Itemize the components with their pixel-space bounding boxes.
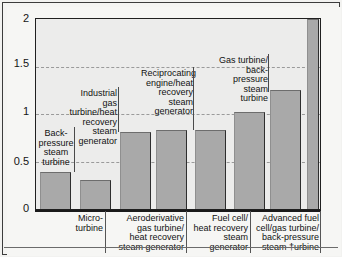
figure-container: 2 1.5 1 0.5 0 Back- pressure steam turbi… <box>0 0 342 257</box>
y-tick-1-5: 1.5 <box>14 58 29 69</box>
bar-back-pressure-steam-turbine <box>40 172 71 209</box>
callout-industrial-gas-turbine: Industrial gas turbine/heat recovery ste… <box>69 89 117 147</box>
leader-reciprocating-engine <box>193 67 194 130</box>
leader-gas-turbine-back-pressure <box>268 54 269 92</box>
bar-fuel-cell-hrsg <box>234 112 265 209</box>
bar-gas-turbine-back-pressure <box>270 90 301 209</box>
y-tick-1: 1 <box>23 106 29 117</box>
callout-reciprocating-engine: Reciprocating engine/heat recovery steam… <box>141 69 193 117</box>
bar-aeroderivative-gas-turbine <box>156 130 187 209</box>
y-tick-0-5: 0.5 <box>14 156 29 167</box>
plot-inner: Back- pressure steam turbine Industrial … <box>36 19 320 209</box>
leader-industrial-gas-turbine <box>118 87 119 132</box>
bar-industrial-gas-turbine <box>120 132 151 209</box>
y-tick-2: 2 <box>23 13 29 24</box>
bar-micro-turbine <box>80 180 111 209</box>
bar-reciprocating-engine <box>195 130 226 209</box>
figure-bottom-rule <box>4 247 338 248</box>
y-axis-tick-labels: 2 1.5 1 0.5 0 <box>0 0 31 257</box>
plot-area: Back- pressure steam turbine Industrial … <box>35 18 321 210</box>
bar-advanced-fuel-cell <box>307 19 319 209</box>
x-label-micro-turbine: Micro- turbine <box>63 214 103 233</box>
y-tick-0: 0 <box>23 203 29 214</box>
callout-gas-turbine-back-pressure: Gas turbine/ back-pressure steam turbine <box>214 56 268 104</box>
